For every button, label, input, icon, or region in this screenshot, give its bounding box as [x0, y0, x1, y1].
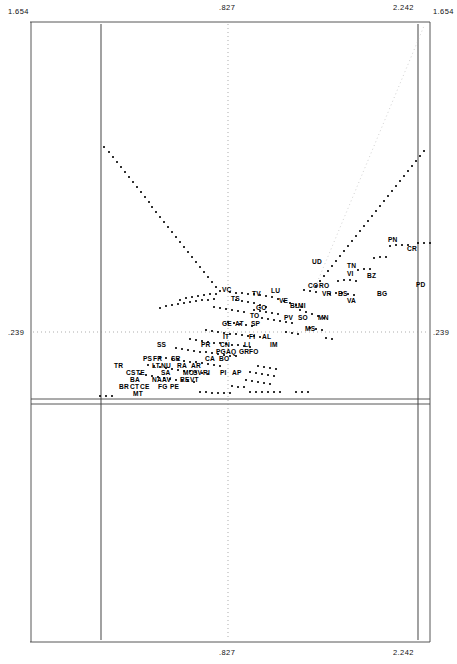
data-point — [213, 306, 215, 308]
point-label-br: BR — [119, 383, 129, 390]
axis-label-top-right: 2.242 — [393, 3, 414, 12]
point-label-ar: AR — [191, 362, 201, 369]
point-label-ud: UD — [312, 258, 322, 265]
data-point — [175, 379, 177, 381]
point-label-fo: FO — [249, 348, 258, 355]
data-point — [179, 299, 181, 301]
data-point — [235, 292, 237, 294]
data-point — [215, 293, 217, 295]
data-point — [277, 313, 279, 315]
data-point — [307, 391, 309, 393]
data-point — [175, 236, 177, 238]
data-point — [423, 242, 425, 244]
point-label-cs: CS — [126, 369, 135, 376]
data-point — [235, 355, 237, 357]
data-point — [321, 329, 323, 331]
data-point — [108, 151, 110, 153]
data-point — [253, 309, 255, 311]
point-label-im: IM — [270, 341, 278, 348]
data-point — [229, 333, 231, 335]
data-point — [263, 366, 265, 368]
axis-label-mid-right: .239 — [433, 328, 449, 337]
data-point — [237, 386, 239, 388]
point-label-vi: VI — [347, 270, 354, 277]
point-label-pi: PI — [220, 369, 227, 376]
data-point — [201, 362, 203, 364]
axis-label-bottom-center: .827 — [219, 648, 235, 657]
data-point — [399, 180, 401, 182]
point-label-tn: TN — [347, 262, 356, 269]
data-point — [163, 221, 165, 223]
point-label-ri: RI — [203, 369, 210, 376]
data-point — [225, 308, 227, 310]
point-label-av: AV — [162, 376, 171, 383]
data-point — [373, 257, 375, 259]
data-point — [205, 329, 207, 331]
data-point — [343, 250, 345, 252]
data-point — [211, 330, 213, 332]
data-point — [279, 320, 281, 322]
point-label-bo: BO — [219, 355, 229, 362]
point-label-ps: PS — [143, 355, 152, 362]
data-point — [219, 290, 221, 292]
data-point — [407, 170, 409, 172]
data-point — [241, 300, 243, 302]
point-label-bz: BZ — [367, 272, 376, 279]
data-point — [167, 226, 169, 228]
point-label-sa: SA — [161, 369, 170, 376]
point-label-ss: SS — [157, 341, 166, 348]
data-point — [171, 231, 173, 233]
data-point — [237, 310, 239, 312]
data-point — [199, 391, 201, 393]
data-point — [291, 322, 293, 324]
data-point — [295, 391, 297, 393]
data-point — [111, 395, 113, 397]
point-label-co: CO — [308, 282, 318, 289]
point-label-it: IT — [223, 333, 229, 340]
point-label-ve: VE — [279, 297, 288, 304]
point-label-cr: CR — [407, 245, 417, 252]
data-point — [213, 298, 215, 300]
point-label-na: NA — [152, 376, 162, 383]
data-point — [385, 256, 387, 258]
axis-label-top-center: .827 — [219, 3, 235, 12]
data-point — [243, 311, 245, 313]
data-point — [165, 357, 167, 359]
point-label-te: TE — [136, 369, 145, 376]
data-point — [201, 299, 203, 301]
point-label-sp: SP — [251, 320, 260, 327]
data-point — [205, 391, 207, 393]
data-point — [245, 379, 247, 381]
data-point — [211, 352, 213, 354]
data-point — [203, 294, 205, 296]
point-label-ap: AP — [232, 369, 241, 376]
point-label-pg: PG — [216, 348, 226, 355]
data-point — [271, 296, 273, 298]
data-point — [144, 196, 146, 198]
point-label-ts: TS — [231, 295, 240, 302]
data-point — [193, 350, 195, 352]
axis-label-mid-left: .239 — [8, 328, 24, 337]
data-point — [263, 382, 265, 384]
data-point — [291, 332, 293, 334]
data-point — [355, 235, 357, 237]
data-point — [237, 344, 239, 346]
point-label-so: SO — [298, 314, 308, 321]
data-point — [140, 191, 142, 193]
data-point — [179, 241, 181, 243]
data-point — [229, 392, 231, 394]
data-point — [247, 293, 249, 295]
data-point — [273, 375, 275, 377]
data-point — [181, 348, 183, 350]
data-point — [395, 244, 397, 246]
data-point — [207, 299, 209, 301]
point-label-fr: FR — [153, 355, 162, 362]
point-label-pn: PN — [388, 236, 397, 243]
data-point — [171, 368, 173, 370]
data-point — [189, 301, 191, 303]
data-point — [303, 289, 305, 291]
data-point — [231, 344, 233, 346]
data-point — [177, 369, 179, 371]
point-label-sv: SV — [193, 369, 202, 376]
point-label-pr: PR — [201, 341, 210, 348]
